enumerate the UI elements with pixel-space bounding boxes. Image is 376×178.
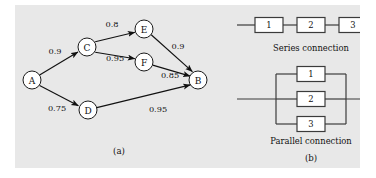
series-block-3[interactable]: 3	[339, 18, 360, 33]
series-block-3-label: 3	[350, 20, 355, 30]
series-block-2[interactable]: 2	[297, 18, 325, 33]
panel-a-group: 0.9 0.75 0.8 0.95 0.9	[23, 19, 207, 156]
series-block-1[interactable]: 1	[255, 18, 283, 33]
panel-a-caption: (a)	[113, 146, 125, 156]
series-connection-caption: Series connection	[273, 43, 350, 53]
node-D[interactable]: D	[79, 101, 97, 119]
parallel-block-1[interactable]: 1	[297, 67, 325, 82]
node-label-C: C	[84, 43, 91, 53]
edge-weight-E-B: 0.9	[171, 41, 184, 51]
node-label-A: A	[28, 76, 36, 86]
edge-weight-F-B: 0.85	[161, 70, 179, 80]
node-F[interactable]: F	[135, 53, 153, 71]
parallel-block-3-label: 3	[308, 119, 313, 129]
panel-b-caption: (b)	[305, 153, 317, 163]
parallel-connection-caption: Parallel connection	[270, 136, 352, 146]
node-label-D: D	[84, 106, 91, 116]
node-label-E: E	[141, 25, 148, 35]
series-block-1-label: 1	[266, 20, 271, 30]
panel-b-group: 1 2 3 Series connection	[237, 18, 360, 164]
edge-A-D: 0.75	[40, 86, 79, 113]
series-block-2-label: 2	[308, 20, 313, 30]
node-C[interactable]: C	[78, 38, 96, 56]
node-B[interactable]: B	[189, 71, 207, 89]
figure-svg: 0.9 0.75 0.8 0.95 0.9	[15, 5, 360, 168]
edge-F-B: 0.85	[153, 65, 190, 80]
parallel-block-2[interactable]: 2	[297, 92, 325, 107]
edge-weight-C-E: 0.8	[105, 19, 118, 29]
edge-C-F: 0.95	[95, 52, 135, 63]
figure-panel: 0.9 0.75 0.8 0.95 0.9	[15, 5, 360, 168]
parallel-connection-diagram: 1 2 3 Parallel connection	[237, 67, 360, 147]
node-E[interactable]: E	[135, 20, 153, 38]
parallel-block-3[interactable]: 3	[297, 117, 325, 132]
node-label-B: B	[195, 76, 202, 86]
edge-weight-A-D: 0.75	[48, 103, 66, 113]
edge-weight-D-B: 0.95	[149, 104, 167, 114]
edge-A-C: 0.9	[40, 46, 78, 75]
edge-weight-C-F: 0.95	[106, 53, 124, 63]
edge-C-E: 0.8	[95, 19, 135, 42]
figure-root: 0.9 0.75 0.8 0.95 0.9	[0, 0, 376, 178]
node-A[interactable]: A	[23, 71, 41, 89]
edge-D-B: 0.95	[97, 85, 191, 114]
parallel-block-2-label: 2	[308, 94, 313, 104]
parallel-block-1-label: 1	[308, 69, 313, 79]
edge-weight-A-C: 0.9	[48, 46, 61, 56]
node-label-F: F	[141, 58, 147, 68]
series-connection-diagram: 1 2 3 Series connection	[237, 18, 360, 54]
